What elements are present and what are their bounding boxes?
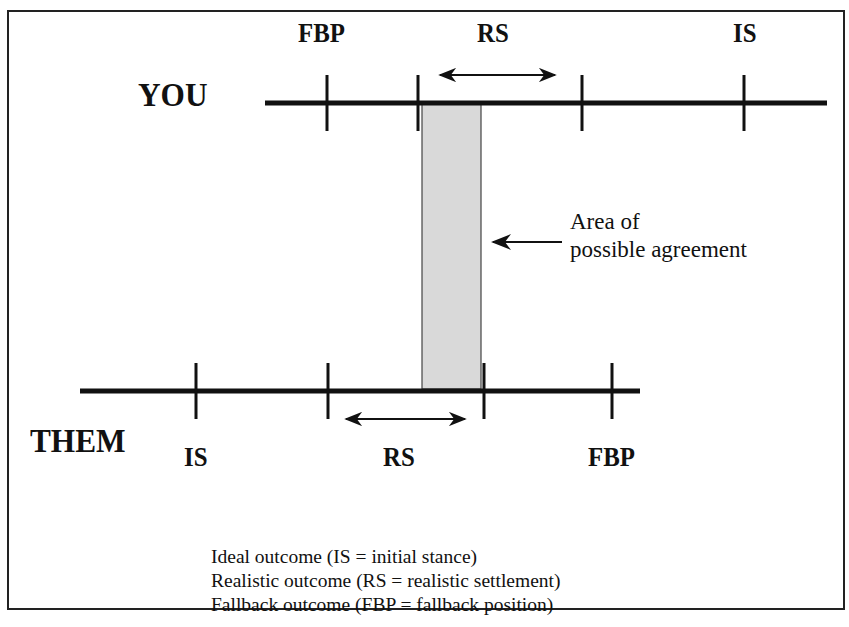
agreement-label-line2: possible agreement [570, 236, 747, 264]
legend-item-realistic: Realistic outcome (RS = realistic settle… [211, 569, 560, 593]
you-party-label: YOU [138, 78, 208, 112]
them-party-label: THEM [30, 424, 126, 458]
diagram-graphics [0, 0, 849, 627]
you-scale [265, 75, 827, 131]
legend-item-fallback: Fallback outcome (FBP = fallback positio… [211, 593, 560, 617]
them-is-label: IS [184, 444, 207, 471]
you-is-label: IS [733, 20, 756, 47]
you-fbp-label: FBP [298, 20, 345, 47]
legend-item-ideal: Ideal outcome (IS = initial stance) [211, 545, 560, 569]
them-fbp-label: FBP [588, 444, 635, 471]
legend: Ideal outcome (IS = initial stance) Real… [211, 545, 560, 617]
agreement-area-rect [422, 103, 481, 389]
you-rs-label: RS [477, 20, 509, 47]
them-scale [80, 363, 640, 419]
agreement-label-line1: Area of [570, 208, 747, 236]
agreement-area-label: Area of possible agreement [570, 208, 747, 264]
them-rs-label: RS [383, 444, 415, 471]
